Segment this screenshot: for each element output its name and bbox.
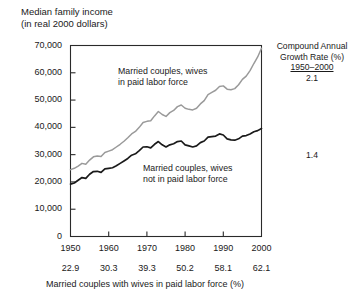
y-axis-tick-label: 50,000 (14, 94, 62, 104)
x-axis-tick-label: 1950 (51, 243, 91, 253)
cagr-value-upper: 2.1 (264, 73, 360, 84)
y-axis-tick-label: 70,000 (14, 40, 62, 50)
secondary-x-axis-tick-label: 22.9 (51, 263, 91, 273)
series-label-wives-not-in-labor-force: Married couples, wives not in paid labor… (143, 163, 232, 184)
y-axis-tick-label: 60,000 (14, 67, 62, 77)
secondary-x-axis-tick-label: 50.2 (165, 263, 205, 273)
secondary-x-axis-tick-label: 58.1 (203, 263, 243, 273)
y-axis-tick-label: 30,000 (14, 149, 62, 159)
cagr-heading-line1: Compound Annual (264, 41, 360, 52)
cagr-heading-line2: Growth Rate (%) (264, 52, 360, 63)
secondary-x-axis-tick-label: 30.3 (89, 263, 129, 273)
series-label-wives-in-labor-force: Married couples, wives in paid labor for… (118, 66, 207, 87)
y-axis-tick-label: 20,000 (14, 176, 62, 186)
y-axis-tick-label: 40,000 (14, 121, 62, 131)
x-axis-tick-label: 1990 (203, 243, 243, 253)
x-axis-tick-label: 1970 (127, 243, 167, 253)
y-axis-ticks (71, 73, 76, 209)
x-axis-title: Married couples with wives in paid labor… (0, 279, 290, 289)
x-axis-tick-label: 1980 (165, 243, 205, 253)
secondary-x-axis-tick-label: 39.3 (127, 263, 167, 273)
x-axis-tick-label: 2000 (242, 243, 282, 253)
y-axis-tick-label: 0 (14, 231, 62, 241)
secondary-x-axis-tick-label: 62.1 (242, 263, 282, 273)
cagr-value-lower: 1.4 (264, 150, 360, 160)
cagr-period: 1950–2000 (264, 62, 360, 73)
x-axis-tick-label: 1960 (89, 243, 129, 253)
x-axis-ticks (109, 232, 224, 237)
y-axis-tick-label: 10,000 (14, 203, 62, 213)
chart-figure: Median family income (in real 2000 dolla… (0, 0, 362, 302)
